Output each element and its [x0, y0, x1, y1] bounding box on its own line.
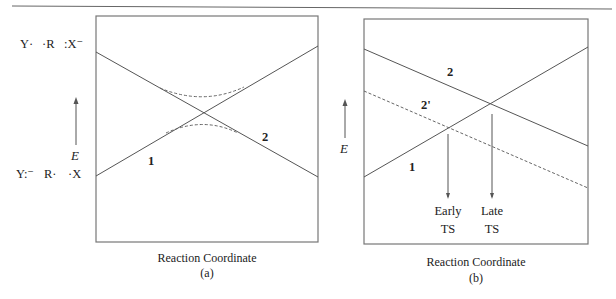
caption-a: (a) — [200, 266, 213, 280]
energy-label-b: E — [339, 141, 348, 156]
curve-2-label: 2 — [447, 65, 453, 79]
arrow-up-icon — [343, 99, 348, 106]
curve-2-line — [96, 52, 318, 177]
arrow-down-icon — [446, 193, 450, 199]
species-bottom-y: Y:⁻ — [16, 167, 34, 181]
curve-2-line — [364, 49, 588, 146]
arrow-up-icon — [74, 97, 79, 104]
energy-label-a: E — [70, 148, 79, 163]
panel-a-frame — [96, 16, 318, 242]
diagram-canvas: 1 2 Y· ·R :X⁻ Y:⁻ R· ·X E Reaction Coord… — [0, 0, 616, 299]
species-top-x: :X⁻ — [64, 37, 83, 51]
curve-1-line — [96, 46, 318, 176]
header-rule — [12, 6, 612, 9]
xlabel-a: Reaction Coordinate — [158, 251, 257, 265]
xlabel-b: Reaction Coordinate — [427, 255, 526, 269]
panel-a: 1 2 Y· ·R :X⁻ Y:⁻ R· ·X E Reaction Coord… — [16, 16, 318, 280]
arrow-down-icon — [490, 193, 494, 199]
late-ts-label-line1: Late — [481, 204, 504, 218]
species-bottom-r: R· — [44, 167, 57, 181]
curve-1-label: 1 — [148, 154, 154, 168]
early-ts-label-line2: TS — [441, 222, 456, 236]
curve-2-label: 2 — [262, 130, 268, 144]
species-bottom-x: ·X — [68, 167, 81, 181]
curve-2-prime-line — [364, 91, 588, 188]
species-top-r: ·R — [42, 37, 55, 51]
panel-b: 2 2' 1 Early TS Late TS E Reaction Coord… — [339, 19, 588, 285]
early-ts-label-line1: Early — [434, 204, 462, 218]
late-ts-label-line2: TS — [485, 222, 500, 236]
caption-b: (b) — [469, 271, 483, 285]
curve-1-label: 1 — [409, 160, 415, 174]
species-top-y: Y· — [20, 37, 33, 51]
curve-1-line — [364, 47, 588, 177]
curve-2-prime-label: 2' — [421, 98, 431, 112]
